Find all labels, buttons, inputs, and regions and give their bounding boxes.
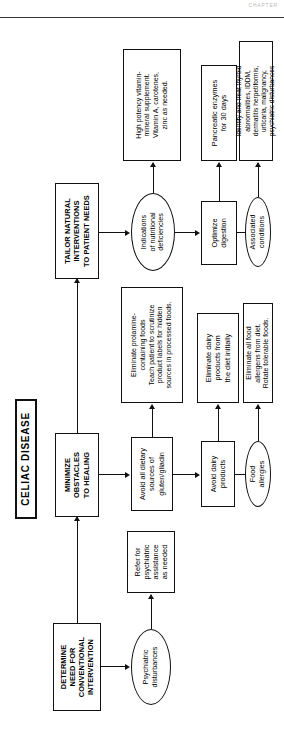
line-stage3-down: [99, 232, 127, 233]
arrow-c3-to-a10: [255, 162, 261, 167]
line-a4-to-a5: [218, 405, 219, 441]
action-eliminate-dairy: Eliminate dairy products from the diet i…: [197, 313, 239, 403]
arrow-c2-down: [195, 230, 200, 236]
arrow-a8-to-a9: [216, 162, 222, 167]
action-eliminate-allergens: Eliminate all food allergens from diet. …: [243, 303, 273, 403]
chart-title: CELIAC DISEASE: [15, 399, 37, 519]
line-c3-to-a10: [258, 163, 259, 197]
line-stage1-down: [101, 666, 127, 667]
action-avoid-dairy: Avoid dairy products: [201, 441, 235, 507]
stage-spine-line: [77, 517, 78, 623]
condition-nutritional-deficiencies: Indications of nutritional deficiencies: [131, 193, 175, 271]
arrow-stage2-down: [125, 472, 130, 478]
line-a2-down: [173, 474, 197, 475]
arrow-c2-to-a7: [150, 162, 156, 167]
line-stage2-down: [99, 474, 127, 475]
arrow-a2-to-a3: [149, 404, 155, 409]
line-c1-to-a1: [151, 595, 152, 629]
arrow-stage1-down: [125, 664, 130, 670]
line-c2-down: [175, 232, 197, 233]
action-pancreatic-enzymes: Pancreatic enzymes for 30 days: [201, 65, 237, 161]
action-vitamin-mineral-supplement: High potency vitamin- mineral supplement…: [123, 49, 181, 161]
arrow-c1-to-a1: [148, 594, 154, 599]
arrow-a4-to-a5: [215, 404, 221, 409]
stage-spine-line-2: [77, 279, 78, 433]
stage-spine-arrow-1: [74, 516, 80, 521]
stage-box-tailor-interventions: TAILOR NATURAL INTERVENTIONS TO PATIENT …: [55, 183, 99, 279]
action-avoid-gluten: Avoid all dietary sources of gluten/glia…: [131, 437, 173, 511]
page-root: CHAPTER CELIAC DISEASE DETERMINE NEED FO…: [0, 0, 284, 733]
condition-psychiatric-disturbances: Psychiatric disturbances: [131, 629, 171, 705]
line-a8-to-a9: [219, 163, 220, 201]
line-c2-to-a7: [153, 163, 154, 193]
condition-food-allergies: Food allergies: [245, 441, 271, 507]
arrow-c4-to-a6: [255, 404, 261, 409]
stage-box-determine-need: DETERMINE NEED FOR CONVENTIONAL INTERVEN…: [53, 623, 101, 711]
arrow-stage3-down: [125, 230, 130, 236]
condition-associated-conditions: Associated conditions: [245, 197, 271, 267]
action-identify-treat-thyroid: Identify and treat thyroid abnormalities…: [239, 41, 273, 161]
flowchart-canvas: CELIAC DISEASE DETERMINE NEED FOR CONVEN…: [11, 17, 273, 717]
stage-spine-arrow-2: [74, 278, 80, 283]
action-optimize-digestion: Optimize digestion: [201, 201, 237, 265]
arrow-a2-down: [195, 472, 200, 478]
action-eliminate-prolamine: Eliminate prolamine- containing foods Te…: [121, 287, 183, 403]
action-refer-psychiatric: Refer for psychiatric assistance as need…: [127, 531, 175, 593]
page-header-note: CHAPTER: [249, 2, 279, 8]
line-c4-to-a6: [258, 405, 259, 441]
stage-box-minimize-obstacles: MINIMIZE OBSTACLES TO HEALING: [55, 433, 99, 517]
line-a2-to-a3: [152, 405, 153, 437]
